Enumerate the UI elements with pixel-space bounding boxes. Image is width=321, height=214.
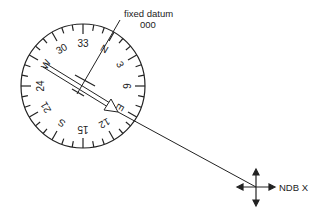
compass-label: 30 [54, 41, 70, 56]
compass-tick [29, 112, 38, 117]
compass-tick [43, 129, 47, 134]
compass-label: 12 [97, 116, 113, 131]
compass-tick [128, 55, 137, 60]
compass-tick [128, 112, 137, 117]
compass-tick [119, 129, 123, 134]
compass-label: 15 [77, 124, 89, 135]
compass-tick [52, 131, 57, 140]
compass-label: 24 [35, 80, 46, 92]
compass-tick [102, 139, 104, 145]
bearing-line-to-ndb [118, 112, 256, 187]
ndb-label: NDB X [279, 182, 309, 193]
aircraft-tail [72, 89, 84, 96]
compass-tick [62, 28, 64, 34]
compass-tick [102, 28, 104, 34]
compass-tick [126, 46, 131, 50]
compass-tick [22, 96, 28, 97]
compass-tick [29, 55, 38, 60]
compass-tick [22, 75, 28, 76]
ndb-symbol-icon [237, 169, 275, 206]
compass-label: 21 [38, 100, 53, 116]
compass-tick [25, 105, 31, 107]
aircraft-wings [75, 75, 95, 86]
datum-label: fixed datum [124, 8, 173, 19]
adf-bearing-diagram: N36E1215S2124W3033 fixed datum 000 NDB X [0, 0, 321, 214]
compass-tick [136, 65, 142, 67]
compass-tick [119, 39, 123, 44]
compass-tick [126, 122, 131, 126]
compass-tick [36, 122, 41, 126]
compass-tick [109, 131, 114, 140]
compass-tick [93, 141, 94, 147]
compass-tick [136, 105, 142, 107]
datum-value: 000 [140, 19, 156, 30]
compass-tick [62, 139, 64, 145]
compass-tick [25, 65, 31, 67]
compass-tick [138, 96, 144, 97]
compass-tick [72, 25, 73, 31]
compass-label: 33 [77, 38, 89, 49]
compass-label: S [56, 117, 68, 130]
compass-tick [43, 39, 47, 44]
compass-tick [52, 32, 57, 41]
compass-tick [36, 46, 41, 50]
compass-label: 3 [114, 59, 127, 70]
compass-tick [72, 141, 73, 147]
compass-tick [138, 75, 144, 76]
compass-label: 6 [121, 83, 132, 89]
compass-tick [93, 25, 94, 31]
